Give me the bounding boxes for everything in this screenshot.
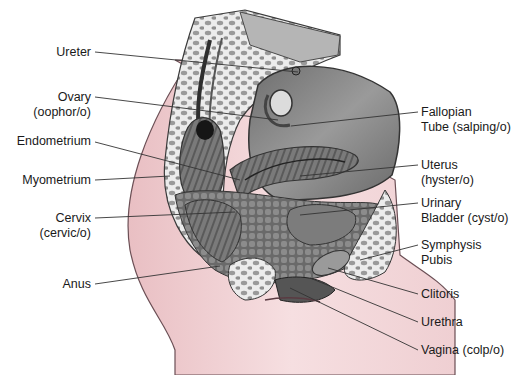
label-fallopian-tube: Fallopian Tube (salping/o) [421,105,511,135]
label-urinary-bladder: Urinary Bladder (cyst/o) [421,196,509,226]
ovary [270,90,292,116]
label-vagina: Vagina (colp/o) [421,343,504,358]
label-myometrium: Myometrium [22,173,91,188]
label-symphysis-pubis: Symphysis Pubis [421,238,481,268]
label-urethra: Urethra [421,315,463,330]
label-ureter: Ureter [56,45,91,60]
label-ovary: Ovary (oophor/o) [33,90,91,120]
label-cervix: Cervix (cervic/o) [40,211,91,241]
label-endometrium: Endometrium [17,134,91,149]
label-anus: Anus [63,277,92,292]
label-uterus: Uterus (hyster/o) [421,158,474,188]
label-clitoris: Clitoris [421,287,459,302]
anatomy-figure: Ureter Ovary (oophor/o) Endometrium Myom… [0,0,521,375]
